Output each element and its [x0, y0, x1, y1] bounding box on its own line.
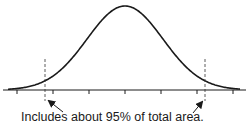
caption-text: Includes about 95% of total area. — [21, 110, 241, 124]
axis-ticks — [17, 90, 233, 94]
